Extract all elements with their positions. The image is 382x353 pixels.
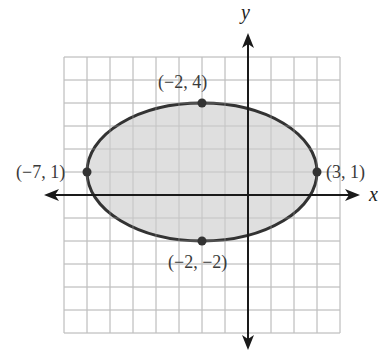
point-bottom-vertex (198, 237, 207, 246)
label-top-vertex: (−2, 4) (158, 72, 207, 93)
point-left-vertex (83, 168, 92, 177)
label-bottom-vertex: (−2, −2) (168, 252, 227, 273)
ellipse-figure: y x (−2, 4) (−7, 1) (3, 1) (−2, −2) (0, 0, 382, 353)
point-right-vertex (313, 168, 322, 177)
label-right-vertex: (3, 1) (326, 162, 365, 183)
y-axis-label: y (239, 1, 250, 24)
x-axis-label: x (368, 183, 378, 205)
point-top-vertex (198, 99, 207, 108)
label-left-vertex: (−7, 1) (16, 162, 65, 183)
